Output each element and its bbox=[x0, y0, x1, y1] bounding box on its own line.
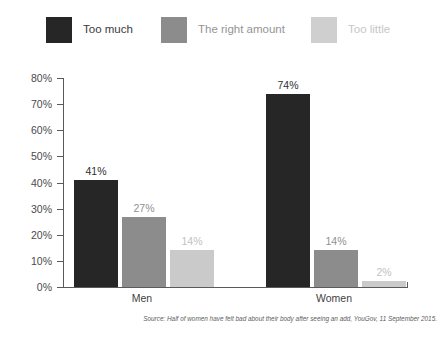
y-tick-0: 0% bbox=[0, 287, 63, 288]
bar-women-too-much[interactable]: 74% bbox=[266, 78, 310, 287]
y-tick-label: 0% bbox=[12, 282, 52, 293]
bar-value-label: 74% bbox=[263, 80, 313, 91]
y-tick-mark bbox=[57, 183, 63, 184]
y-axis-line bbox=[63, 78, 64, 288]
bar-women-too-little[interactable]: 2% bbox=[362, 78, 406, 287]
x-axis-end-tick bbox=[407, 282, 408, 288]
y-tick-40: 40% bbox=[0, 183, 63, 184]
category-label-women: Women bbox=[310, 293, 358, 304]
bar-men-right-amount[interactable]: 27% bbox=[122, 78, 166, 287]
y-tick-label: 70% bbox=[12, 99, 52, 110]
bar-value-label: 14% bbox=[167, 236, 217, 247]
y-tick-10: 10% bbox=[0, 261, 63, 262]
y-tick-70: 70% bbox=[0, 104, 63, 105]
bar-rect[interactable] bbox=[314, 250, 358, 287]
y-tick-label: 60% bbox=[12, 125, 52, 136]
bar-men-too-little[interactable]: 14% bbox=[170, 78, 214, 287]
y-tick-20: 20% bbox=[0, 235, 63, 236]
y-tick-label: 20% bbox=[12, 230, 52, 241]
y-tick-mark bbox=[57, 261, 63, 262]
bar-value-label: 2% bbox=[359, 267, 409, 278]
source-caption: Source: Half of women have felt bad abou… bbox=[0, 316, 437, 322]
y-tick-label: 40% bbox=[12, 178, 52, 189]
bar-rect[interactable] bbox=[74, 180, 118, 287]
y-tick-mark bbox=[57, 130, 63, 131]
bar-men-too-much[interactable]: 41% bbox=[74, 78, 118, 287]
bar-rect[interactable] bbox=[362, 281, 406, 287]
y-tick-mark bbox=[57, 235, 63, 236]
y-tick-mark bbox=[57, 104, 63, 105]
y-tick-mark bbox=[57, 78, 63, 79]
category-label-men: Men bbox=[118, 293, 166, 304]
y-tick-mark bbox=[57, 156, 63, 157]
y-tick-label: 30% bbox=[12, 204, 52, 215]
y-tick-30: 30% bbox=[0, 209, 63, 210]
y-tick-label: 50% bbox=[12, 151, 52, 162]
y-tick-mark bbox=[57, 209, 63, 210]
bar-rect[interactable] bbox=[266, 94, 310, 287]
bar-value-label: 27% bbox=[119, 203, 169, 214]
bar-chart-plot: 0% 10% 20% 30% 40% 50% 60% 70% 80% 41% 2… bbox=[0, 0, 443, 338]
y-tick-50: 50% bbox=[0, 156, 63, 157]
y-tick-80: 80% bbox=[0, 78, 63, 79]
bar-rect[interactable] bbox=[170, 250, 214, 287]
y-tick-mark bbox=[57, 287, 63, 288]
bar-women-right-amount[interactable]: 14% bbox=[314, 78, 358, 287]
bar-value-label: 14% bbox=[311, 236, 361, 247]
bar-value-label: 41% bbox=[71, 166, 121, 177]
x-axis-line bbox=[63, 287, 408, 288]
y-tick-label: 10% bbox=[12, 256, 52, 267]
bar-rect[interactable] bbox=[122, 217, 166, 287]
y-tick-label: 80% bbox=[12, 73, 52, 84]
y-tick-60: 60% bbox=[0, 130, 63, 131]
